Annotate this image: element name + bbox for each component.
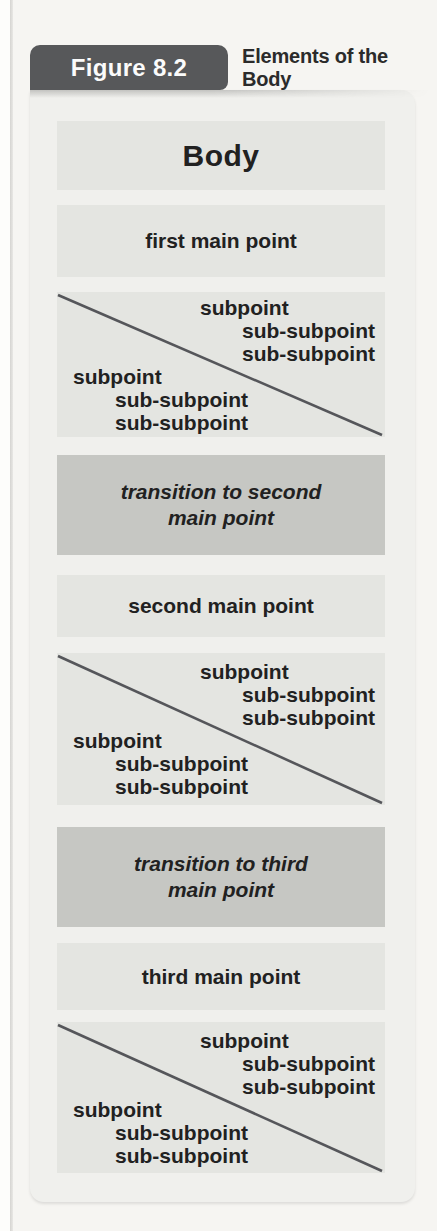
subpoint-label: subpoint bbox=[200, 1029, 385, 1052]
main-point-label: second main point bbox=[128, 594, 314, 618]
sub-subpoint-label: sub-subpoint bbox=[115, 388, 385, 411]
main-point-box-1: first main point bbox=[57, 205, 385, 277]
transition-box-1: transition to second main point bbox=[57, 455, 385, 555]
subpoint-label: subpoint bbox=[73, 729, 385, 752]
main-point-box-3: third main point bbox=[57, 943, 385, 1010]
subpoint-box-2: subpoint sub-subpoint sub-subpoint subpo… bbox=[57, 653, 385, 805]
subpoint-label: subpoint bbox=[73, 1098, 385, 1121]
transition-label-line: transition to second bbox=[121, 479, 322, 505]
transition-label-line: transition to third bbox=[134, 851, 308, 877]
subpoint-label: subpoint bbox=[200, 296, 385, 319]
transition-label-line: main point bbox=[168, 505, 274, 531]
body-title-box: Body bbox=[57, 121, 385, 190]
main-point-label: third main point bbox=[142, 965, 301, 989]
subpoint-box-3: subpoint sub-subpoint sub-subpoint subpo… bbox=[57, 1022, 385, 1173]
sub-subpoint-label: sub-subpoint bbox=[242, 319, 385, 342]
page-edge-highlight bbox=[0, 0, 10, 1231]
transition-box-2: transition to third main point bbox=[57, 827, 385, 927]
sub-subpoint-label: sub-subpoint bbox=[242, 1052, 385, 1075]
sub-subpoint-label: sub-subpoint bbox=[115, 752, 385, 775]
sub-subpoint-label: sub-subpoint bbox=[242, 706, 385, 729]
sub-subpoint-label: sub-subpoint bbox=[115, 411, 385, 434]
subpoint-box-1: subpoint sub-subpoint sub-subpoint subpo… bbox=[57, 292, 385, 437]
figure-label-tab: Figure 8.2 bbox=[30, 45, 228, 90]
sub-subpoint-label: sub-subpoint bbox=[115, 1121, 385, 1144]
transition-label-line: main point bbox=[168, 877, 274, 903]
subpoint-label: subpoint bbox=[200, 660, 385, 683]
subpoint-label: subpoint bbox=[73, 365, 385, 388]
figure-title: Elements of the Body bbox=[242, 45, 437, 90]
sub-subpoint-label: sub-subpoint bbox=[115, 775, 385, 798]
main-point-box-2: second main point bbox=[57, 575, 385, 637]
header-shadow bbox=[30, 90, 437, 98]
page-edge-shadow bbox=[10, 0, 13, 1231]
body-title: Body bbox=[183, 139, 260, 173]
figure-label: Figure 8.2 bbox=[71, 54, 187, 82]
main-point-label: first main point bbox=[145, 229, 297, 253]
sub-subpoint-label: sub-subpoint bbox=[242, 683, 385, 706]
sub-subpoint-label: sub-subpoint bbox=[242, 1075, 385, 1098]
body-outline-panel: Body first main point subpoint sub-subpo… bbox=[30, 90, 415, 1202]
sub-subpoint-label: sub-subpoint bbox=[242, 342, 385, 365]
sub-subpoint-label: sub-subpoint bbox=[115, 1144, 385, 1167]
